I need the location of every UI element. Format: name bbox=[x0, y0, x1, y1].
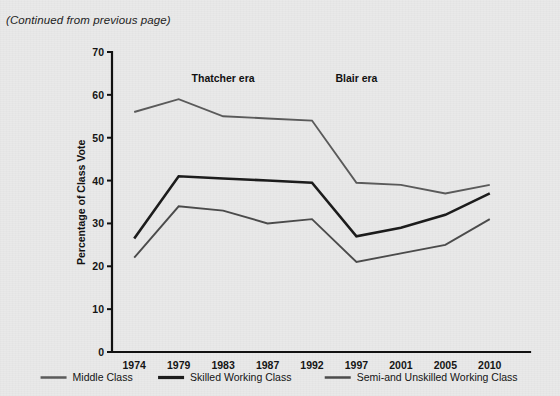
x-axis-tick-label: 1983 bbox=[211, 359, 235, 371]
era-annotation-label: Blair era bbox=[335, 72, 377, 84]
y-axis-tick-group: 010203040506070 bbox=[92, 46, 112, 358]
x-axis-tick-label: 1979 bbox=[167, 359, 191, 371]
x-axis-tick-label: 2005 bbox=[434, 359, 458, 371]
y-axis-tick-label: 30 bbox=[92, 217, 104, 229]
y-axis-tick-label: 20 bbox=[92, 260, 104, 272]
y-axis-tick-label: 70 bbox=[92, 46, 104, 58]
y-axis-tick-label: 60 bbox=[92, 89, 104, 101]
y-axis-tick-label: 0 bbox=[98, 346, 104, 358]
y-axis-tick-label: 50 bbox=[92, 132, 104, 144]
series-group bbox=[134, 99, 490, 262]
x-axis-tick-label: 2010 bbox=[478, 359, 502, 371]
legend-item-label: Middle Class bbox=[73, 371, 133, 383]
scanned-page: (Continued from previous page) 010203040… bbox=[0, 0, 560, 396]
era-annotation-label: Thatcher era bbox=[192, 72, 255, 84]
x-axis-tick-label: 1992 bbox=[300, 359, 324, 371]
x-axis-tick-label: 1987 bbox=[256, 359, 280, 371]
series-line bbox=[134, 206, 490, 262]
x-axis-tick-group: 197419791983198719921997200120052010 bbox=[123, 359, 502, 371]
chart-svg: 010203040506070 197419791983198719921997… bbox=[0, 0, 560, 396]
y-axis-tick-label: 10 bbox=[92, 303, 104, 315]
era-annotation-group: Thatcher eraBlair era bbox=[192, 72, 378, 84]
x-axis-tick-label: 2001 bbox=[389, 359, 413, 371]
x-axis-tick-label: 1997 bbox=[345, 359, 369, 371]
y-axis-title: Percentage of Class Vote bbox=[75, 140, 87, 265]
y-axis-tick-label: 40 bbox=[92, 175, 104, 187]
legend-item-label: Skilled Working Class bbox=[190, 371, 291, 383]
x-axis-tick-label: 1974 bbox=[123, 359, 147, 371]
series-line bbox=[134, 99, 490, 193]
legend-item-label: Semi-and Unskilled Working Class bbox=[357, 371, 518, 383]
chart-legend: Middle ClassSkilled Working ClassSemi-an… bbox=[41, 371, 518, 383]
line-chart: 010203040506070 197419791983198719921997… bbox=[0, 0, 560, 396]
